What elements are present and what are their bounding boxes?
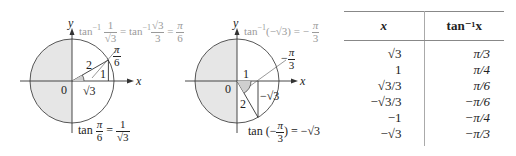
- cell-value: −π/3: [424, 126, 504, 146]
- table-header-row: x tan⁻¹x: [344, 12, 504, 41]
- left-bottom-equation: tan π6 = 1√3: [78, 119, 130, 143]
- cell-x: −√3/3: [344, 94, 424, 110]
- cell-x: √3/3: [344, 78, 424, 94]
- right-adjacent-label: 1: [243, 68, 249, 80]
- cell-value: −π/6: [424, 94, 504, 110]
- table-row: −√3 −π/3: [344, 126, 504, 146]
- right-origin-label: 0: [225, 83, 231, 95]
- right-angle-label: −π3: [281, 47, 295, 71]
- left-origin-label: 0: [61, 84, 67, 96]
- right-opposite-label: −√3: [260, 90, 279, 102]
- cell-x: −√3: [344, 126, 424, 146]
- cell-value: π/6: [424, 78, 504, 94]
- table-row: √3/3 π/6: [344, 78, 504, 94]
- left-hypotenuse-label: 2: [86, 59, 92, 71]
- table-row: 1 π/4: [344, 62, 504, 78]
- left-y-axis-label: y: [68, 17, 73, 29]
- header-x: x: [344, 12, 424, 41]
- table-row: −1 −π/4: [344, 110, 504, 126]
- left-angle-label: π6: [113, 44, 121, 68]
- header-arctan: tan⁻¹x: [424, 12, 504, 41]
- left-adjacent-label: √3: [83, 85, 96, 97]
- cell-x: √3: [344, 41, 424, 63]
- left-x-axis-label: x: [136, 75, 141, 87]
- table-row: −√3/3 −π/6: [344, 94, 504, 110]
- right-y-axis-label: y: [233, 17, 238, 29]
- right-x-axis-label: x: [300, 75, 305, 87]
- cell-value: π/4: [424, 62, 504, 78]
- cell-value: −π/4: [424, 110, 504, 126]
- arctan-values-table: x tan⁻¹x √3 π/3 1 π/4 √3/3 π/6 −√3/3 −π/…: [344, 11, 504, 146]
- cell-x: −1: [344, 110, 424, 126]
- left-opposite-label: 1: [100, 68, 106, 80]
- cell-value: π/3: [424, 41, 504, 63]
- cell-x: 1: [344, 62, 424, 78]
- table-row: √3 π/3: [344, 41, 504, 63]
- right-bottom-equation: tan (−π3) = −√3: [248, 120, 320, 144]
- right-top-equation: tan−1(−√3) = − π3: [244, 20, 319, 44]
- left-top-equation: tan−1 1√3 = tan−1√33 = π6: [79, 20, 184, 44]
- right-hypotenuse-label: 2: [240, 98, 246, 110]
- unit-circle-figures: y x 0 2 1 √3 π6 tan−1 1√3 = tan−1√33 = π…: [0, 0, 340, 156]
